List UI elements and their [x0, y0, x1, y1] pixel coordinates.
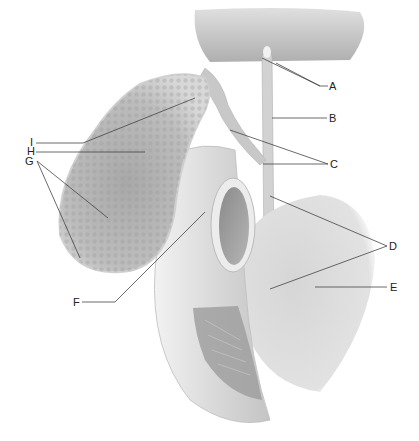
label-f: F: [73, 296, 80, 308]
label-d: D: [389, 240, 397, 252]
anatomy-diagram: A B C D E F I H G: [0, 0, 419, 441]
label-g: G: [25, 155, 34, 167]
label-e: E: [390, 281, 397, 293]
label-c: C: [330, 158, 338, 170]
label-b: B: [329, 112, 336, 124]
leader-a2: [276, 63, 320, 86]
label-a: A: [329, 80, 337, 92]
liver-shape: [195, 8, 365, 62]
pancreas-shape: [240, 195, 375, 392]
